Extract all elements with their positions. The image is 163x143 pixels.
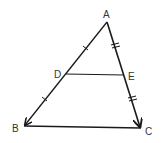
triangle-diagram: A B C D E: [0, 0, 163, 143]
segment-bc: [24, 126, 141, 128]
segment-de: [66, 74, 124, 75]
label-e: E: [128, 71, 135, 82]
segment-ab: [25, 22, 107, 125]
double-tick-mark-ec: [128, 96, 137, 101]
label-c: C: [145, 126, 152, 137]
label-d: D: [54, 69, 61, 80]
double-tick-mark-ae: [111, 43, 120, 48]
label-a: A: [103, 9, 110, 20]
label-b: B: [12, 123, 19, 134]
